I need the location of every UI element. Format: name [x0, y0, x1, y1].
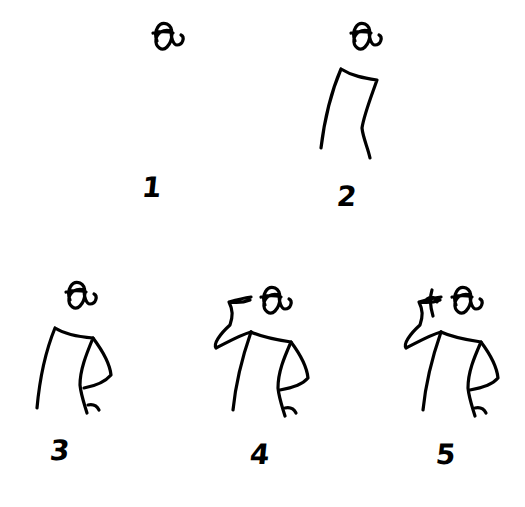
step-2-label: 2 [336, 183, 358, 211]
arm-shape [470, 342, 498, 413]
step-3-label: 3 [49, 437, 71, 465]
torso-shape [321, 69, 377, 158]
head-icon [153, 23, 183, 49]
step-3-drawing [37, 282, 111, 413]
head-icon [66, 282, 96, 308]
step-4-drawing [215, 287, 308, 416]
raised-arm-shape [405, 297, 441, 348]
step-2-drawing [321, 23, 381, 158]
arm-shape [280, 342, 308, 413]
step-5-drawing [405, 287, 498, 416]
step-1-drawing [153, 23, 183, 49]
step-1-label: 1 [141, 174, 163, 202]
head-icon [351, 23, 381, 49]
tutorial-drawings [0, 0, 525, 507]
torso-shape [423, 332, 481, 416]
step-4-label: 4 [249, 441, 271, 469]
head-icon [261, 287, 291, 313]
step-5-label: 5 [435, 441, 457, 469]
torso-shape [37, 328, 93, 413]
raised-arm-shape [215, 297, 251, 348]
torso-shape [233, 332, 291, 416]
drawing-tutorial: 1 2 3 4 5 [0, 0, 525, 507]
head-icon [452, 287, 482, 313]
